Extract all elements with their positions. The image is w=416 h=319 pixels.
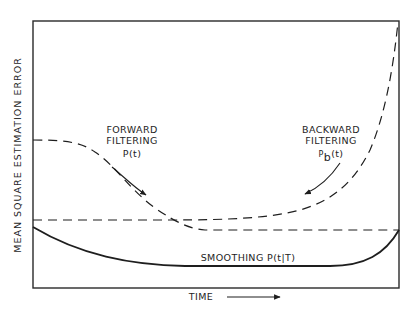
chart: MEAN SQUARE ESTIMATION ERROR FORWARD FIL… xyxy=(0,0,416,319)
smoothing-label: SMOOTHING P(t|T) xyxy=(201,252,296,263)
forward-label-line1: FORWARD xyxy=(106,124,157,135)
backward-label-line1: BACKWARD xyxy=(302,124,360,135)
plot-frame xyxy=(33,21,399,288)
backward-label-line3: Pb(t) xyxy=(319,148,344,164)
backward-arrow-icon xyxy=(305,163,340,194)
y-axis-label: MEAN SQUARE ESTIMATION ERROR xyxy=(12,57,23,253)
forward-filtering-curve xyxy=(33,140,399,230)
forward-label-line3: P(t) xyxy=(123,148,141,159)
forward-arrow-icon xyxy=(112,167,146,195)
backward-filtering-curve xyxy=(33,22,398,220)
forward-label-line2: FILTERING xyxy=(106,135,158,146)
backward-label-line2: FILTERING xyxy=(305,135,357,146)
x-axis-label: TIME xyxy=(188,291,213,302)
